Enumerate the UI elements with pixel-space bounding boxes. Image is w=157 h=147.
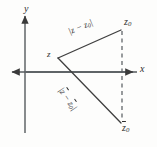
point-label-z0-conjugate: z0 xyxy=(122,123,129,134)
segment-z-to-z0 xyxy=(58,30,121,58)
point-label-z: z xyxy=(47,50,51,59)
y-axis-label: y xyxy=(24,4,28,14)
point-label-z0: z0 xyxy=(124,17,131,28)
x-axis-label: x xyxy=(140,64,144,74)
point-label-z0-subscript: 0 xyxy=(128,20,131,27)
figure-container: y x z z0 z0 |z − z0| |z − z0| xyxy=(0,0,157,147)
point-label-z0-conjugate-subscript: 0 xyxy=(126,126,129,133)
